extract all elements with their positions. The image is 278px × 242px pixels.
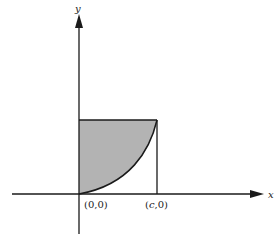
- c-label-close: ,0): [155, 199, 169, 210]
- x-axis-arrow-icon: [250, 190, 264, 198]
- y-axis-label: y: [74, 3, 81, 14]
- x-axis-label: x: [268, 189, 274, 200]
- c-point-label: (c,0): [145, 199, 168, 210]
- shaded-region: [79, 120, 157, 194]
- origin-label: (0,0): [84, 199, 108, 210]
- diagram: y x (0,0) (c,0): [0, 0, 278, 242]
- y-axis-arrow-icon: [75, 14, 83, 28]
